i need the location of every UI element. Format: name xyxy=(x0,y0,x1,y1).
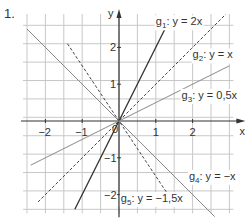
x-tick-label: 1 xyxy=(153,126,159,138)
x-axis-arrow-icon xyxy=(236,119,245,124)
x-axis-label: x xyxy=(239,125,245,137)
line-g4 xyxy=(27,29,215,217)
y-axis-arrow-icon xyxy=(117,9,122,18)
y-tick-label: −1 xyxy=(104,152,117,164)
coordinate-plot: xy−2−112−2−1120 g1: y = 2xg2: y = xg3: y… xyxy=(0,0,247,220)
x-tick-label: −1 xyxy=(75,126,88,138)
line-g5 xyxy=(67,44,174,204)
x-tick-label: −2 xyxy=(38,126,51,138)
y-axis-label: y xyxy=(108,7,114,19)
function-lines xyxy=(27,14,229,216)
x-tick-label: 2 xyxy=(190,126,196,138)
y-tick-label: −2 xyxy=(104,189,117,201)
y-tick-label: 2 xyxy=(110,41,116,53)
axes: xy−2−112−2−1120 xyxy=(21,7,245,217)
y-tick-label: 1 xyxy=(110,78,116,90)
